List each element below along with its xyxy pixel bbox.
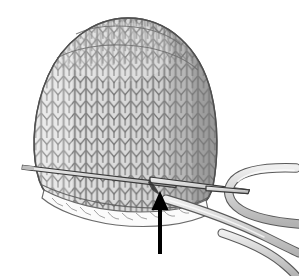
knit-hat-illustration — [0, 0, 299, 276]
illustration-canvas: Knitted hat on circular needles with wor… — [0, 0, 299, 276]
